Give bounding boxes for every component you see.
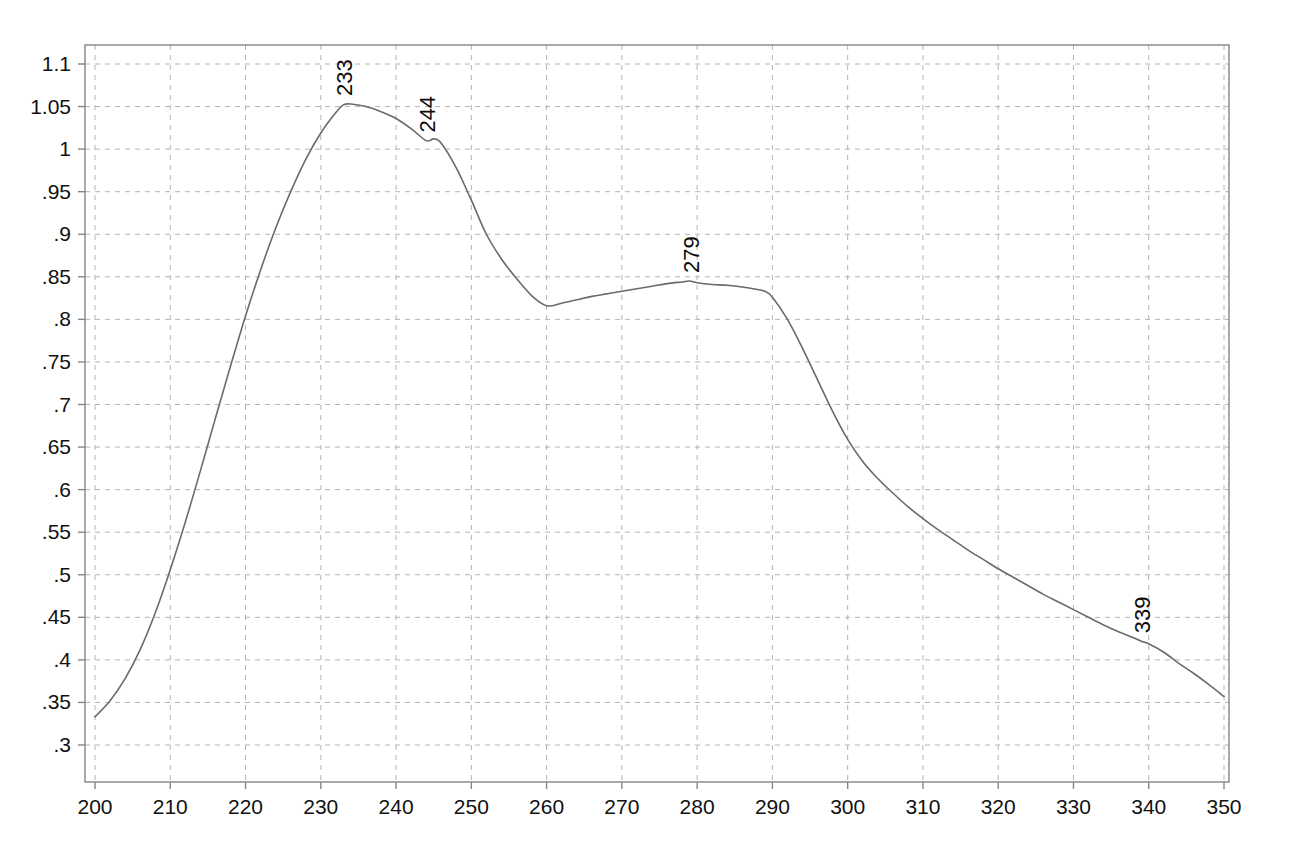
- y-axis-tick-label: .95: [42, 180, 71, 203]
- y-axis-tick-label: .6: [53, 478, 71, 501]
- y-axis-tick-label: .55: [42, 520, 71, 543]
- x-axis-tick-label: 210: [153, 795, 188, 818]
- x-axis-tick-label: 270: [604, 795, 639, 818]
- y-axis-tick-label: .3: [53, 733, 71, 756]
- peak-annotation: 279: [679, 236, 704, 273]
- y-axis-tick-label: .35: [42, 690, 71, 713]
- x-axis-tick-label: 310: [905, 795, 940, 818]
- y-axis-tick-label: .8: [53, 307, 71, 330]
- y-axis-tick-label: 1.1: [42, 52, 71, 75]
- peak-annotation: 339: [1130, 596, 1155, 633]
- x-axis-tick-label: 240: [379, 795, 414, 818]
- x-axis-tick-label: 230: [303, 795, 338, 818]
- peak-annotation-label: 244: [415, 96, 440, 133]
- y-axis-tick-label: .9: [53, 222, 71, 245]
- y-axis-tick-label: 1: [59, 137, 71, 160]
- x-axis-tick-label: 350: [1206, 795, 1241, 818]
- x-axis-tick-label: 260: [529, 795, 564, 818]
- x-axis-tick-label: 300: [830, 795, 865, 818]
- x-axis-tick-label: 280: [680, 795, 715, 818]
- peak-annotation: 233: [332, 59, 357, 96]
- x-axis-tick-label: 340: [1131, 795, 1166, 818]
- x-axis-tick-label: 200: [77, 795, 112, 818]
- y-axis-tick-label: .45: [42, 605, 71, 628]
- peak-annotation: 244: [415, 96, 440, 133]
- spectrum-chart: .3.35.4.45.5.55.6.65.7.75.8.85.9.9511.05…: [0, 0, 1291, 850]
- peak-annotation-label: 279: [679, 236, 704, 273]
- y-axis-tick-label: .65: [42, 435, 71, 458]
- peak-annotation-label: 339: [1130, 596, 1155, 633]
- x-axis-tick-label: 290: [755, 795, 790, 818]
- x-axis-tick-label: 250: [454, 795, 489, 818]
- y-axis-tick-label: .75: [42, 350, 71, 373]
- y-axis-tick-label: .4: [53, 648, 71, 671]
- x-axis-tick-label: 320: [981, 795, 1016, 818]
- peak-annotation-label: 233: [332, 59, 357, 96]
- x-axis-tick-label: 220: [228, 795, 263, 818]
- x-axis-tick-label: 330: [1056, 795, 1091, 818]
- y-axis-tick-label: 1.05: [30, 95, 71, 118]
- y-axis-tick-label: .5: [53, 563, 71, 586]
- chart-background: [0, 0, 1291, 850]
- y-axis-tick-label: .85: [42, 265, 71, 288]
- y-axis-tick-label: .7: [53, 393, 71, 416]
- chart-canvas: .3.35.4.45.5.55.6.65.7.75.8.85.9.9511.05…: [0, 0, 1291, 850]
